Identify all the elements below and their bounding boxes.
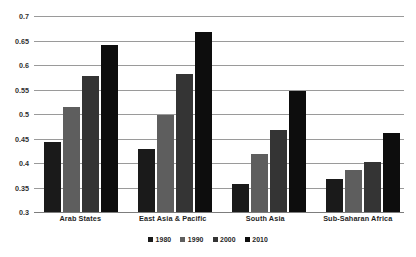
legend-item[interactable]: 2010 bbox=[245, 236, 268, 243]
legend-swatch-icon bbox=[148, 237, 153, 242]
bar-group bbox=[222, 16, 316, 212]
bar[interactable] bbox=[289, 91, 306, 212]
y-tick-label: 0.35 bbox=[15, 183, 29, 192]
x-axis-category-labels: Arab StatesEast Asia & PacificSouth Asia… bbox=[34, 214, 404, 223]
y-axis-ticks: 0.70.650.60.550.50.450.40.350.3 bbox=[0, 0, 32, 257]
y-tick-label: 0.6 bbox=[19, 61, 29, 70]
chart-legend: 1980199020002010 bbox=[0, 236, 416, 243]
bar[interactable] bbox=[383, 133, 400, 212]
bar-group bbox=[34, 16, 128, 212]
legend-swatch-icon bbox=[213, 237, 218, 242]
y-tick-label: 0.7 bbox=[19, 12, 29, 21]
bar[interactable] bbox=[232, 184, 249, 212]
bar[interactable] bbox=[82, 76, 99, 212]
y-tick-label: 0.3 bbox=[19, 208, 29, 217]
legend-item[interactable]: 1990 bbox=[180, 236, 203, 243]
bar[interactable] bbox=[138, 149, 155, 212]
x-tick-label: Sub-Saharan Africa bbox=[312, 214, 405, 223]
legend-item[interactable]: 2000 bbox=[213, 236, 236, 243]
x-tick-label: South Asia bbox=[219, 214, 312, 223]
bar[interactable] bbox=[63, 107, 80, 212]
legend-label: 1990 bbox=[188, 236, 204, 243]
x-axis-line bbox=[34, 212, 404, 213]
y-tick-label: 0.5 bbox=[19, 110, 29, 119]
bar-chart: 0.70.650.60.550.50.450.40.350.3 Arab Sta… bbox=[0, 0, 416, 257]
bar[interactable] bbox=[157, 115, 174, 213]
bar[interactable] bbox=[270, 130, 287, 212]
bar[interactable] bbox=[326, 179, 343, 212]
legend-label: 1980 bbox=[156, 236, 172, 243]
y-tick-label: 0.4 bbox=[19, 159, 29, 168]
bar-groups bbox=[34, 16, 404, 212]
bar-group bbox=[316, 16, 410, 212]
bar[interactable] bbox=[176, 74, 193, 212]
legend-label: 2000 bbox=[220, 236, 236, 243]
bar-group bbox=[128, 16, 222, 212]
bar[interactable] bbox=[345, 170, 362, 212]
x-tick-label: East Asia & Pacific bbox=[127, 214, 220, 223]
bar[interactable] bbox=[195, 32, 212, 212]
legend-label: 2010 bbox=[252, 236, 268, 243]
y-tick-label: 0.45 bbox=[15, 134, 29, 143]
legend-swatch-icon bbox=[245, 237, 250, 242]
bar[interactable] bbox=[364, 162, 381, 212]
bar[interactable] bbox=[101, 45, 118, 212]
bar[interactable] bbox=[251, 154, 268, 212]
y-tick-label: 0.55 bbox=[15, 85, 29, 94]
plot-area bbox=[34, 16, 404, 212]
y-tick-label: 0.65 bbox=[15, 36, 29, 45]
legend-swatch-icon bbox=[180, 237, 185, 242]
legend-item[interactable]: 1980 bbox=[148, 236, 171, 243]
x-tick-label: Arab States bbox=[34, 214, 127, 223]
bar[interactable] bbox=[44, 142, 61, 212]
